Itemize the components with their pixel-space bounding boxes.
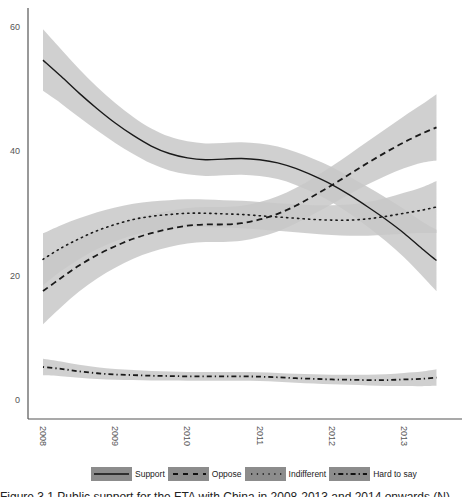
y-tick-label: 60 [10, 22, 20, 32]
legend-item-indifferent: Indifferent [245, 467, 327, 481]
y-axis-ticks: 0204060 [10, 22, 20, 406]
x-tick-label: 2013 [399, 426, 409, 446]
legend-label: Support [135, 469, 165, 479]
x-axis-ticks: 200820092010201120122013 [38, 426, 409, 446]
x-tick-label: 2011 [255, 426, 265, 445]
figure-caption: Figure 3.1 Public support for the FTA wi… [0, 490, 470, 497]
line-chart: 0204060 200820092010201120122013 [0, 0, 470, 465]
legend-label: Indifferent [289, 469, 327, 479]
confidence-band [43, 359, 436, 386]
legend-item-hard-to-say: Hard to say [329, 467, 416, 481]
legend-swatch-dotted-icon [245, 467, 286, 481]
legend-swatch-solid-icon [91, 467, 132, 481]
confidence-bands [43, 29, 436, 386]
legend: Support Oppose Indifferent Hard to say [91, 467, 420, 481]
y-tick-label: 40 [10, 146, 20, 156]
x-tick-label: 2008 [38, 426, 48, 446]
legend-item-support: Support [91, 467, 165, 481]
legend-swatch-dashdot-icon [329, 467, 370, 481]
legend-item-oppose: Oppose [168, 467, 242, 481]
legend-swatch-dashed-icon [168, 467, 209, 481]
x-tick-label: 2012 [327, 426, 337, 446]
legend-label: Oppose [212, 469, 242, 479]
x-tick-label: 2009 [110, 426, 120, 446]
y-tick-label: 20 [10, 271, 20, 281]
legend-label: Hard to say [373, 469, 416, 479]
x-tick-label: 2010 [182, 426, 192, 446]
y-tick-label: 0 [15, 395, 20, 405]
